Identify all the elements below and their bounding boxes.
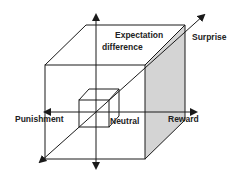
punishment-label: Punishment: [15, 114, 64, 124]
expectation-label: Expectation: [115, 30, 163, 40]
cube-drawing: [0, 0, 236, 180]
surprise-label: Surprise: [192, 32, 227, 42]
difference-label: difference: [102, 42, 143, 52]
neutral-label: Neutral: [110, 116, 139, 126]
reward-label: Reward: [168, 114, 199, 124]
cube-diagram: Expectation difference Surprise Punishme…: [0, 0, 236, 180]
